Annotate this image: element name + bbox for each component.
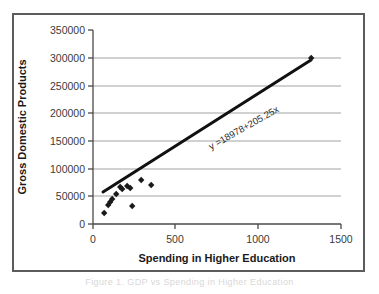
y-tick-label-50000: 50000 bbox=[56, 190, 85, 202]
y-tick-label-100000: 100000 bbox=[50, 163, 85, 175]
y-tick-label-350000: 350000 bbox=[50, 24, 85, 36]
x-axis bbox=[93, 224, 341, 229]
x-tick-label-500: 500 bbox=[166, 233, 184, 245]
data-point bbox=[129, 203, 135, 209]
data-point bbox=[101, 210, 107, 216]
y-tick-labels: 350000 300000 250000 200000 150000 10000… bbox=[50, 24, 85, 230]
y-tick-label-300000: 300000 bbox=[50, 52, 85, 64]
x-tick-label-1000: 1000 bbox=[246, 233, 270, 245]
y-tick-label-200000: 200000 bbox=[50, 107, 85, 119]
data-point bbox=[138, 177, 144, 183]
x-axis-title: Spending in Higher Education bbox=[138, 252, 295, 264]
y-tick-label-250000: 250000 bbox=[50, 80, 85, 92]
y-tick-label-0: 0 bbox=[79, 218, 85, 230]
scatter-chart: 350000 300000 250000 200000 150000 10000… bbox=[0, 0, 379, 294]
figure-root: 350000 300000 250000 200000 150000 10000… bbox=[0, 0, 379, 294]
y-axis bbox=[88, 30, 93, 224]
y-axis-title: Gross Domestic Products bbox=[16, 59, 28, 194]
x-tick-labels: 0 500 1000 1500 bbox=[90, 233, 353, 245]
trendline-equation-label: y =18978+205.25x bbox=[207, 103, 281, 151]
y-tick-label-150000: 150000 bbox=[50, 135, 85, 147]
x-tick-label-0: 0 bbox=[90, 233, 96, 245]
trendline-segment bbox=[103, 60, 311, 192]
trendline bbox=[103, 60, 311, 192]
x-tick-label-1500: 1500 bbox=[329, 233, 353, 245]
data-point bbox=[148, 182, 154, 188]
figure-caption: Figure 1. GDP vs Spending in Higher Educ… bbox=[0, 277, 379, 287]
